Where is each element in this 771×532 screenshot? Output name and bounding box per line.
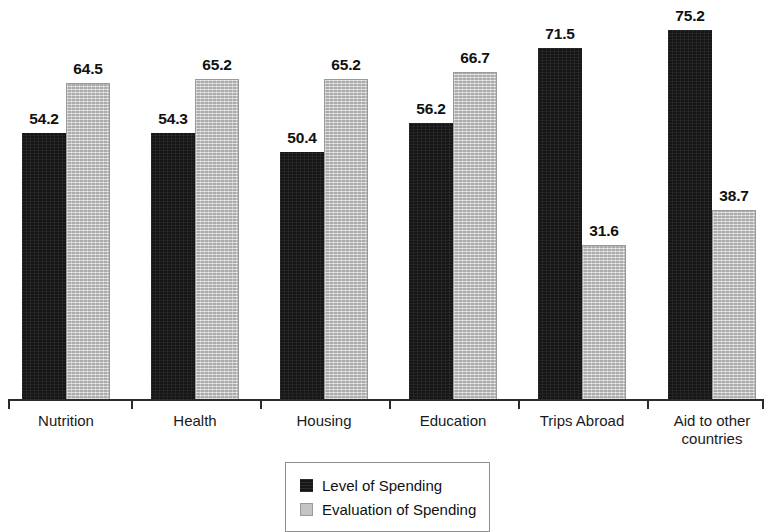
category-label-1: Health — [133, 412, 257, 430]
bar-value-label: 75.2 — [662, 7, 718, 25]
bar-evaluation-2 — [324, 79, 368, 400]
bar-value-label: 38.7 — [706, 187, 762, 205]
bar-value-label: 31.6 — [576, 222, 632, 240]
bar-level-3 — [409, 123, 453, 400]
bar-value-label: 64.5 — [60, 60, 116, 78]
legend-item-evaluation: Evaluation of Spending — [300, 497, 489, 521]
axis-tick-5 — [647, 399, 649, 409]
bar-value-label: 66.7 — [447, 49, 503, 67]
bar-evaluation-0 — [66, 83, 110, 400]
chart-legend: Level of Spending Evaluation of Spending — [285, 462, 490, 532]
x-axis-line — [8, 399, 763, 401]
axis-tick-0 — [8, 399, 10, 409]
legend-swatch-black-square-icon — [300, 479, 313, 492]
category-label-0: Nutrition — [4, 412, 128, 430]
bar-evaluation-5 — [712, 210, 756, 400]
bar-value-label: 65.2 — [318, 56, 374, 74]
bar-evaluation-4 — [582, 245, 626, 400]
bar-level-5 — [668, 30, 712, 400]
bar-value-label: 65.2 — [189, 56, 245, 74]
axis-tick-1 — [131, 399, 133, 409]
axis-tick-4 — [518, 399, 520, 409]
axis-tick-2 — [260, 399, 262, 409]
bar-value-label: 54.3 — [145, 110, 201, 128]
bar-evaluation-3 — [453, 72, 497, 400]
legend-label-level: Level of Spending — [322, 477, 442, 494]
bar-level-0 — [22, 133, 66, 400]
bar-level-1 — [151, 133, 195, 400]
bar-evaluation-1 — [195, 79, 239, 400]
bar-value-label: 56.2 — [403, 100, 459, 118]
bar-value-label: 54.2 — [16, 110, 72, 128]
category-label-3: Education — [391, 412, 515, 430]
category-label-5: Aid to other countries — [650, 412, 771, 448]
bar-value-label: 50.4 — [274, 129, 330, 147]
legend-label-evaluation: Evaluation of Spending — [322, 501, 476, 518]
axis-tick-3 — [389, 399, 391, 409]
bar-value-label: 71.5 — [532, 25, 588, 43]
axis-tick-6 — [762, 399, 764, 409]
plot-area: 54.264.554.365.250.465.256.266.771.531.6… — [0, 0, 771, 400]
category-label-2: Housing — [262, 412, 386, 430]
legend-swatch-gray-square-icon — [300, 503, 313, 516]
bar-level-2 — [280, 152, 324, 400]
legend-item-level: Level of Spending — [300, 473, 489, 497]
category-label-4: Trips Abroad — [520, 412, 644, 430]
